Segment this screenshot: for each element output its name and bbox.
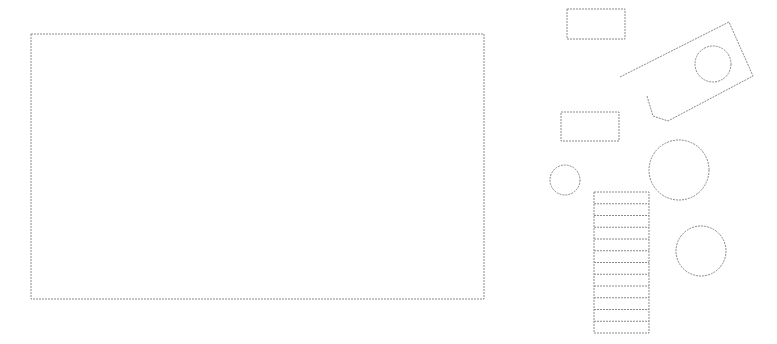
small-rectangle-middle bbox=[561, 112, 619, 141]
small-circle bbox=[550, 165, 580, 195]
large-circle bbox=[649, 140, 709, 200]
large-rectangle bbox=[31, 34, 484, 299]
small-rectangle-top bbox=[567, 9, 625, 39]
tilted-plate-shape bbox=[620, 22, 753, 121]
lower-circle bbox=[676, 226, 726, 276]
plate-hole-circle bbox=[695, 46, 731, 82]
drawing-canvas bbox=[0, 0, 777, 344]
